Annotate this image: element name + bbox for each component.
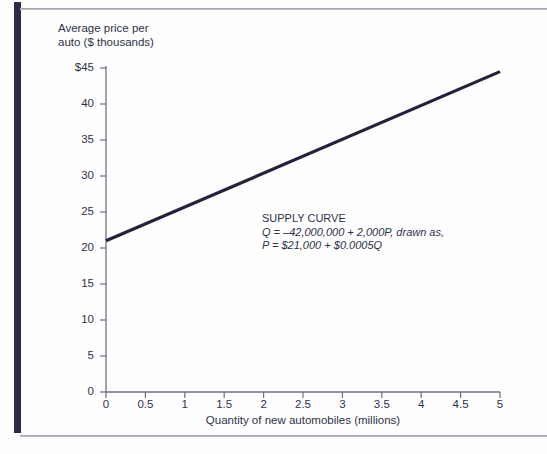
x-tick-label: 4.5 [441,398,481,410]
y-tick-label: 30 [48,169,94,181]
y-tick-label: 25 [48,205,94,217]
annotation-equation-q: Q = –42,000,000 + 2,000P, drawn as, [262,226,444,240]
x-tick-label: 2.5 [283,398,323,410]
x-tick-label: 5 [480,398,520,410]
annotation-equation-p: P = $21,000 + $0.0005Q [262,239,444,253]
y-tick-label: 40 [48,97,94,109]
x-axis-title: Quantity of new automobiles (millions) [106,414,500,426]
x-tick-label: 3 [322,398,362,410]
x-tick-label: 1 [165,398,205,410]
x-tick-label: 1.5 [204,398,244,410]
y-tick-label: $45 [48,61,94,73]
y-tick-label: 20 [48,241,94,253]
y-tick-label: 15 [48,277,94,289]
x-tick-label: 3.5 [362,398,402,410]
y-tick-label: 35 [48,133,94,145]
x-tick-label: 0 [86,398,126,410]
y-tick-label: 10 [48,313,94,325]
x-tick-label: 2 [244,398,284,410]
supply-curve-annotation: SUPPLY CURVE Q = –42,000,000 + 2,000P, d… [262,212,444,253]
y-tick-label: 0 [48,385,94,397]
figure-container: Average price per auto ($ thousands) 051… [0,0,547,454]
x-tick-label: 4 [401,398,441,410]
annotation-heading: SUPPLY CURVE [262,212,444,226]
x-tick-label: 0.5 [125,398,165,410]
y-tick-label: 5 [48,349,94,361]
